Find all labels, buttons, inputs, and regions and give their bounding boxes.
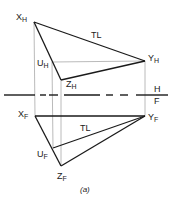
figure-caption: (a) [80, 186, 90, 194]
label-fold-f: F [154, 97, 160, 106]
label-fold-h: H [154, 85, 161, 94]
label-u-h: UH [37, 59, 49, 69]
label-y-h: YH [148, 54, 159, 64]
label-true-length-top: TL [91, 31, 102, 40]
label-x-f: XF [18, 110, 28, 120]
edge-z-y-top [61, 61, 145, 80]
projector-x [34, 22, 35, 116]
label-true-length-front: TL [80, 124, 91, 133]
label-u-f: UF [37, 150, 48, 160]
label-y-f: YF [148, 113, 158, 123]
label-z-f: ZF [57, 172, 67, 182]
construction-line-u-y [52, 61, 145, 62]
orthographic-projection-figure: XH YH UH ZH TL H F XF YF UF ZF TL (a) [0, 0, 180, 199]
edge-x-y-top [34, 22, 145, 61]
projection-drawing [0, 0, 180, 199]
label-x-h: XH [16, 13, 27, 23]
projector-u [52, 62, 53, 148]
label-z-h: ZH [66, 80, 77, 90]
